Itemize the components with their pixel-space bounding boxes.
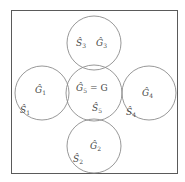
set-diagram-figure: Ŝ3 Ĝ3 Ĝ1 Ŝ1 Ĝ5= G Ŝ5 Ĝ4 Ŝ4 Ĝ2 Ŝ2 (0, 0, 185, 182)
label-g5-equals-g: Ĝ5= G (76, 82, 108, 94)
diagram-canvas: Ŝ3 Ĝ3 Ĝ1 Ŝ1 Ĝ5= G Ŝ5 Ĝ4 Ŝ4 Ĝ2 Ŝ2 (0, 0, 185, 182)
